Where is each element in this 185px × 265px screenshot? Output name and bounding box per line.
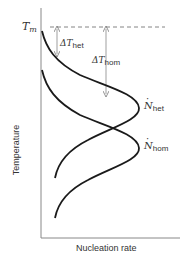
nucleation-diagram [0, 0, 185, 265]
n-het-curve [42, 31, 139, 178]
n-hom-curve [42, 70, 139, 218]
delta-t-het-label: ΔThet [60, 38, 84, 50]
tm-label: Tm [22, 20, 37, 34]
x-axis-label: Nucleation rate [76, 243, 137, 253]
delta-t-hom-label: ΔThom [92, 55, 120, 67]
n-hom-label: Nhom [144, 140, 168, 153]
y-axis-label: Temperature [11, 125, 21, 176]
n-het-label: Nhet [144, 100, 164, 113]
